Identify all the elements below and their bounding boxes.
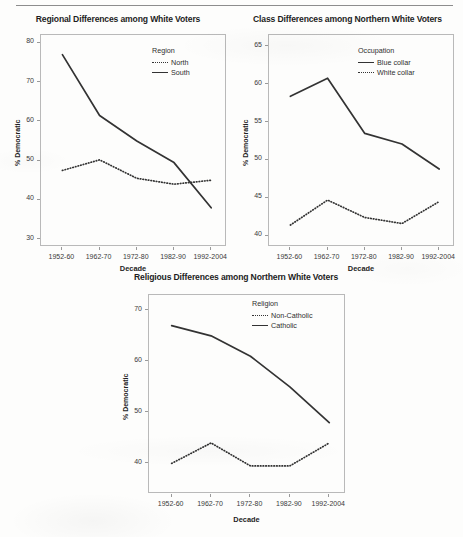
y-axis-tick-label: 50	[240, 154, 262, 161]
y-axis-tick-label: 60	[240, 79, 262, 86]
x-axis-tick-label: 1992-2004	[415, 253, 461, 260]
x-axis-tick	[327, 247, 328, 250]
series-canvas	[41, 35, 227, 247]
legend-title: Occupation	[358, 46, 415, 55]
y-axis-tick-label: 55	[240, 117, 262, 124]
y-axis-tick-label: 40	[120, 458, 142, 465]
y-axis-tick	[37, 238, 40, 239]
y-axis-tick	[145, 360, 148, 361]
y-axis-tick-label: 50	[120, 407, 142, 414]
y-axis-tick	[265, 197, 268, 198]
legend-item-label: Catholic	[271, 321, 297, 330]
legend-item: Blue collar	[358, 58, 415, 67]
series-canvas	[149, 295, 346, 494]
y-axis-tick	[145, 411, 148, 412]
legend-item-label: Non-Catholic	[271, 311, 313, 320]
y-axis-tick-label: 80	[12, 37, 34, 44]
y-axis-tick-label: 45	[240, 192, 262, 199]
legend-item-label: Blue collar	[377, 58, 411, 67]
page-header-rule	[16, 5, 453, 6]
x-axis-tick	[171, 494, 172, 497]
solid-line-icon	[358, 59, 374, 66]
scanned-chart-page: Regional Differences among White Voters …	[0, 0, 463, 537]
x-axis-tick	[328, 494, 329, 497]
plot-area	[148, 294, 345, 493]
legend-item: White collar	[358, 68, 415, 77]
legend-item-label: White collar	[377, 68, 415, 77]
y-axis-tick	[265, 45, 268, 46]
y-axis-tick-label: 65	[240, 41, 262, 48]
y-axis-tick	[265, 159, 268, 160]
chart-religious-differences: Religious Differences among Northern Whi…	[110, 272, 362, 530]
y-axis-tick-label: 60	[120, 356, 142, 363]
chart-title: Regional Differences among White Voters	[4, 14, 232, 24]
y-axis-tick	[145, 309, 148, 310]
x-axis-tick	[364, 247, 365, 250]
x-axis-tick	[289, 494, 290, 497]
y-axis-tick	[37, 160, 40, 161]
y-axis-tick	[265, 121, 268, 122]
x-axis-label: Decade	[148, 515, 345, 524]
legend-item: Catholic	[252, 321, 313, 330]
y-axis-tick	[37, 81, 40, 82]
x-axis-tick	[99, 247, 100, 250]
chart-legend: Religion Non-Catholic Catholic	[252, 299, 313, 332]
x-axis-tick	[173, 247, 174, 250]
x-axis-tick	[438, 247, 439, 250]
series-line	[290, 78, 439, 169]
x-axis-tick	[210, 247, 211, 250]
y-axis-tick	[265, 235, 268, 236]
y-axis-tick	[37, 42, 40, 43]
y-axis-tick-label: 40	[12, 194, 34, 201]
y-axis-tick-label: 40	[240, 230, 262, 237]
y-axis-tick	[145, 462, 148, 463]
x-axis-tick	[249, 494, 250, 497]
chart-regional-differences: Regional Differences among White Voters …	[4, 14, 232, 270]
legend-item: North	[152, 58, 190, 67]
series-line	[172, 326, 330, 423]
y-axis-tick	[37, 199, 40, 200]
dotted-line-icon	[358, 69, 374, 76]
solid-line-icon	[152, 69, 168, 76]
legend-title: Region	[152, 46, 190, 55]
chart-title: Class Differences among Northern White V…	[232, 14, 463, 24]
legend-item-label: North	[171, 58, 189, 67]
x-axis-tick	[136, 247, 137, 250]
chart-title: Religious Differences among Northern Whi…	[110, 272, 362, 282]
dotted-line-icon	[252, 312, 268, 319]
series-line	[290, 200, 439, 225]
y-axis-tick-label: 70	[12, 77, 34, 84]
y-axis-tick-label: 70	[120, 305, 142, 312]
solid-line-icon	[252, 322, 268, 329]
chart-class-differences: Class Differences among Northern White V…	[232, 14, 463, 270]
dotted-line-icon	[152, 59, 168, 66]
legend-item-label: South	[171, 68, 190, 77]
y-axis-tick-label: 60	[12, 116, 34, 123]
x-axis-tick-label: 1992-2004	[187, 253, 233, 260]
legend-title: Religion	[252, 299, 313, 308]
plot-area	[40, 34, 226, 246]
legend-item: Non-Catholic	[252, 311, 313, 320]
x-axis-tick	[401, 247, 402, 250]
x-axis-tick-label: 1992-2004	[305, 500, 351, 507]
x-axis-tick	[289, 247, 290, 250]
x-axis-tick	[210, 494, 211, 497]
x-axis-tick	[61, 247, 62, 250]
y-axis-tick-label: 50	[12, 155, 34, 162]
legend-item: South	[152, 68, 190, 77]
series-line	[172, 443, 330, 466]
y-axis-tick-label: 30	[12, 234, 34, 241]
chart-legend: Region North South	[152, 46, 190, 79]
y-axis-tick	[37, 120, 40, 121]
y-axis-tick	[265, 83, 268, 84]
chart-legend: Occupation Blue collar White collar	[358, 46, 415, 79]
